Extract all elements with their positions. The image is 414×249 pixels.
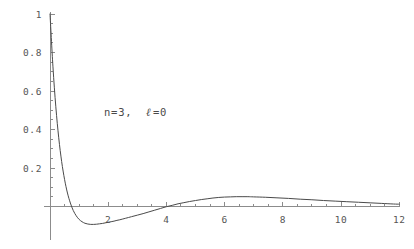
plot-background	[0, 0, 414, 249]
x-tick-label: 6	[221, 214, 227, 225]
y-tick-label: 0.6	[23, 86, 42, 97]
y-tick-label: 0.2	[23, 163, 42, 174]
annotation-ell-icon: ℓ	[146, 106, 151, 119]
y-tick-label: 0.8	[23, 47, 42, 58]
x-tick-label: 10	[335, 214, 348, 225]
y-tick-label: 0.4	[23, 124, 42, 135]
annotation-n-label: n=3,	[104, 106, 133, 118]
annotation-ell-value: =0	[153, 106, 167, 118]
x-tick-label: 8	[280, 214, 286, 225]
plot-canvas: 24681012 0.20.40.60.81 n=3, ℓ =0	[0, 0, 414, 249]
y-tick-label: 1	[36, 9, 42, 20]
plot-figure: 24681012 0.20.40.60.81 n=3, ℓ =0	[0, 0, 414, 249]
x-tick-label: 4	[163, 214, 169, 225]
x-tick-label: 12	[393, 214, 406, 225]
